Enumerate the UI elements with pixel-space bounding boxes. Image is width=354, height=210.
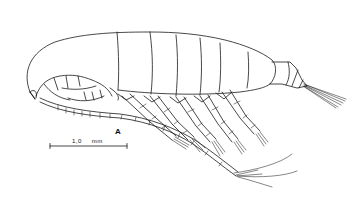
scale-bar <box>50 144 127 149</box>
scale-bar-label: 1,0mm <box>72 138 103 144</box>
body-outline <box>27 32 276 99</box>
swimming-legs <box>118 90 268 156</box>
copepod-illustration: A 1,0mm <box>0 0 354 210</box>
scale-value: 1,0 <box>72 138 82 144</box>
scale-unit: mm <box>92 138 103 144</box>
urosome <box>270 62 346 108</box>
panel-label: A <box>115 127 121 136</box>
mouthparts <box>36 75 119 101</box>
